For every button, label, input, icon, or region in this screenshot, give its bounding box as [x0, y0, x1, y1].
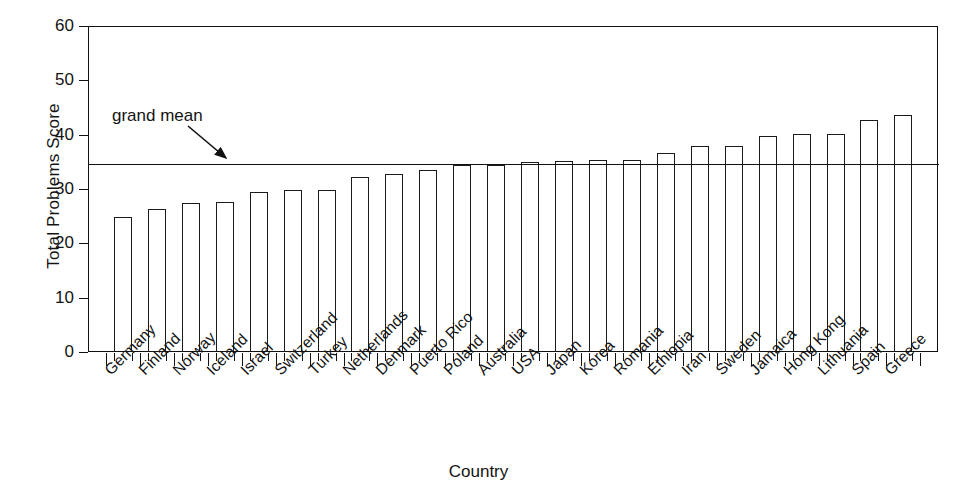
y-tick-label: 50 — [30, 70, 74, 90]
bar[interactable] — [691, 146, 709, 351]
bar[interactable] — [521, 162, 539, 351]
x-axis-title: Country — [0, 462, 957, 482]
y-tick-label: 20 — [30, 233, 74, 253]
x-axis-labels: GermanyFinlandNorwayIcelandIsraelSwitzer… — [0, 352, 957, 462]
y-tick-mark — [79, 189, 88, 190]
bar[interactable] — [623, 160, 641, 351]
y-tick-label: 10 — [30, 288, 74, 308]
y-tick-mark — [79, 298, 88, 299]
bar[interactable] — [487, 165, 505, 351]
y-tick-mark — [79, 26, 88, 27]
chart-figure: Total Problems Score 6050403020100 grand… — [0, 0, 957, 500]
bar[interactable] — [589, 160, 607, 351]
y-tick-label: 60 — [30, 16, 74, 36]
grand-mean-arrow-icon — [186, 124, 246, 170]
bar[interactable] — [759, 136, 777, 351]
y-tick-mark — [79, 243, 88, 244]
y-tick-mark — [79, 80, 88, 81]
y-tick-label: 30 — [30, 179, 74, 199]
bar[interactable] — [555, 161, 573, 351]
bar[interactable] — [725, 146, 743, 351]
bar[interactable] — [182, 203, 200, 351]
bar[interactable] — [351, 177, 369, 351]
bar[interactable] — [657, 153, 675, 351]
bar[interactable] — [419, 170, 437, 351]
bar[interactable] — [284, 190, 302, 351]
bar[interactable] — [216, 202, 234, 351]
bar[interactable] — [894, 115, 912, 351]
bar[interactable] — [114, 217, 132, 351]
plot-area — [88, 26, 938, 352]
grand-mean-annotation-label: grand mean — [112, 106, 203, 126]
bar[interactable] — [860, 120, 878, 351]
y-tick-label: 40 — [30, 125, 74, 145]
bar[interactable] — [250, 192, 268, 351]
y-tick-mark — [79, 135, 88, 136]
bar[interactable] — [793, 134, 811, 351]
